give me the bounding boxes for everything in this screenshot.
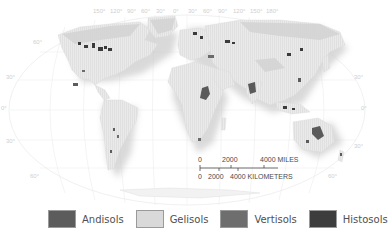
svg-text:150°: 150°	[250, 8, 263, 14]
longitude-labels: 150° 120° 90° 60° 30° 0° 30° 60° 90° 120…	[93, 8, 279, 14]
svg-text:150°: 150°	[93, 8, 106, 14]
scale-km-4000: 4000 KILOMETERS	[230, 173, 293, 180]
svg-text:120°: 120°	[233, 8, 246, 14]
svg-text:120°: 120°	[110, 8, 123, 14]
svg-text:30°: 30°	[354, 74, 364, 80]
svg-text:0°: 0°	[361, 105, 367, 111]
svg-text:60°: 60°	[203, 8, 213, 14]
legend-label: Gelisols	[170, 214, 209, 225]
legend-label: Andisols	[82, 214, 124, 225]
svg-text:30°: 30°	[188, 8, 198, 14]
svg-text:90°: 90°	[127, 8, 137, 14]
svg-text:0°: 0°	[173, 8, 179, 14]
svg-text:30°: 30°	[6, 138, 16, 144]
histosols-swatch	[309, 210, 337, 228]
legend-item-gelisols: Gelisols	[136, 210, 209, 228]
scale-km-0: 0	[198, 173, 202, 180]
legend-item-vertisols: Vertisols	[220, 210, 296, 228]
svg-text:60°: 60°	[30, 173, 40, 179]
scale-miles-2000: 2000	[222, 156, 238, 163]
svg-text:0°: 0°	[1, 105, 7, 111]
scale-bar: 0 2000 4000 MILES 0 2000 4000 KILOMETERS	[198, 153, 318, 183]
scale-miles-4000: 4000 MILES	[260, 156, 299, 163]
svg-text:30°: 30°	[6, 74, 16, 80]
svg-text:60°: 60°	[141, 8, 151, 14]
svg-text:30°: 30°	[156, 8, 166, 14]
scale-km-2000: 2000	[208, 173, 224, 180]
legend: Andisols Gelisols Vertisols Histosols	[48, 209, 368, 229]
madagascar	[221, 118, 226, 130]
gelisols-swatch	[136, 210, 164, 228]
scale-miles-0: 0	[198, 156, 202, 163]
svg-text:30°: 30°	[354, 143, 364, 149]
svg-text:180°: 180°	[266, 8, 279, 14]
legend-item-andisols: Andisols	[48, 210, 124, 228]
svg-text:90°: 90°	[218, 8, 228, 14]
legend-label: Vertisols	[254, 214, 296, 225]
svg-text:60°: 60°	[33, 39, 43, 45]
andisols-swatch	[48, 210, 76, 228]
vertisols-swatch	[220, 210, 248, 228]
legend-label: Histosols	[343, 214, 388, 225]
legend-item-histosols: Histosols	[309, 210, 388, 228]
svg-text:60°: 60°	[328, 173, 338, 179]
